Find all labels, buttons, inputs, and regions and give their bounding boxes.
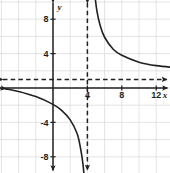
y-axis-label: y (57, 2, 63, 12)
x-tick-label: 12 (151, 90, 161, 100)
axis-lines (3, 3, 168, 171)
y-tick-label: -8 (40, 152, 48, 162)
coordinate-graph-figure: 4812161284-4-8-12xy (0, 0, 170, 173)
tick-labels: 4812161284-4-8-12xy (35, 0, 170, 173)
x-axis-label: x (162, 90, 168, 100)
y-tick-label: 8 (43, 14, 48, 24)
x-tick-label: 8 (119, 90, 124, 100)
graph-canvas: 4812161284-4-8-12xy (0, 0, 170, 173)
gridlines (0, 0, 170, 173)
asymptote-lines (3, 3, 167, 170)
y-tick-label: 4 (43, 49, 48, 59)
hyperbola-upper-right-branch (93, 0, 170, 70)
y-tick-label: -4 (40, 118, 48, 128)
tick-marks (50, 0, 170, 173)
x-tick-label: 4 (85, 90, 90, 100)
